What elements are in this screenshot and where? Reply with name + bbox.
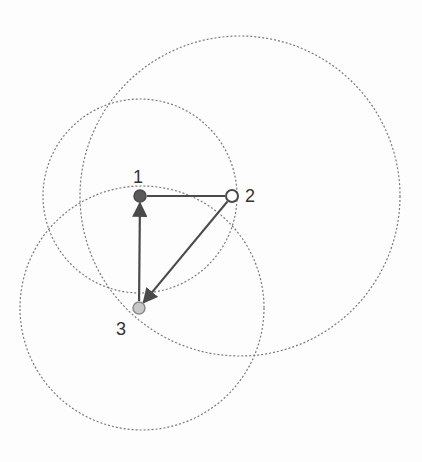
range-circles	[20, 36, 400, 430]
node-2-icon	[226, 190, 238, 202]
range-circle-b	[80, 36, 400, 356]
node-label-2: 2	[245, 186, 255, 206]
node-label-1: 1	[133, 167, 143, 187]
network-diagram: 1 2 3	[0, 0, 422, 462]
edges	[139, 196, 227, 303]
node-3-icon	[133, 302, 145, 314]
edge-2-to-3-arrow	[143, 201, 227, 302]
node-label-3: 3	[116, 319, 126, 339]
node-1-icon	[134, 190, 146, 202]
edge-3-to-1-arrow	[139, 203, 140, 301]
